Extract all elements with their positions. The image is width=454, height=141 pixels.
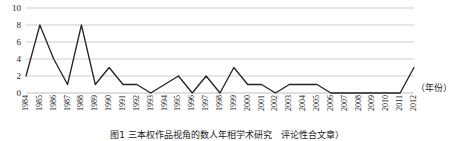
y-tick-label: 10 [12,4,21,13]
x-tick-label: 1986 [50,95,58,111]
x-tick-label: 2002 [271,95,279,111]
x-tick-label: 1997 [202,95,210,111]
x-tick-label: 2007 [341,95,349,111]
y-axis: 0246810 [0,8,24,93]
x-axis: 1984198519861987198819891990199119921993… [26,95,414,129]
x-tick-label: 2011 [396,95,404,111]
x-axis-unit-label: （年份） [416,84,452,93]
x-tick-label: 2012 [410,95,418,111]
x-tick-label: 1994 [161,95,169,111]
x-tick-label: 1999 [230,95,238,111]
x-tick-label: 2000 [244,95,252,111]
y-tick-label: 8 [17,21,22,30]
x-tick-label: 2009 [368,95,376,111]
data-series-line [26,8,414,93]
x-tick-label: 2001 [258,95,266,111]
x-tick-label: 1998 [216,95,224,111]
x-tick-label: 2006 [327,95,335,111]
x-tick-label: 1996 [188,95,196,111]
x-tick-label: 1995 [174,95,182,111]
x-tick-label: 2003 [285,95,293,111]
series-polyline [26,25,414,93]
figure-caption: 图1 三本权作品视角的数人年相学术研究 评论性合文章） [0,130,454,141]
y-tick-label: 6 [17,38,22,47]
x-tick-label: 2005 [313,95,321,111]
x-tick-label: 1984 [22,95,30,111]
x-tick-label: 1987 [64,95,72,111]
x-tick-label: 1992 [133,95,141,111]
x-tick-label: 2004 [299,95,307,111]
y-tick-label: 2 [17,72,22,81]
plot-area [26,8,414,93]
chart-figure: 0246810 19841985198619871988198919901991… [0,0,454,141]
x-tick-label: 1993 [147,95,155,111]
x-tick-label: 1985 [36,95,44,111]
x-tick-label: 2010 [382,95,390,111]
x-tick-label: 1990 [105,95,113,111]
x-tick-label: 1988 [77,95,85,111]
y-tick-label: 4 [17,55,22,64]
x-tick-label: 2008 [355,95,363,111]
x-tick-label: 1991 [119,95,127,111]
x-tick-label: 1989 [91,95,99,111]
